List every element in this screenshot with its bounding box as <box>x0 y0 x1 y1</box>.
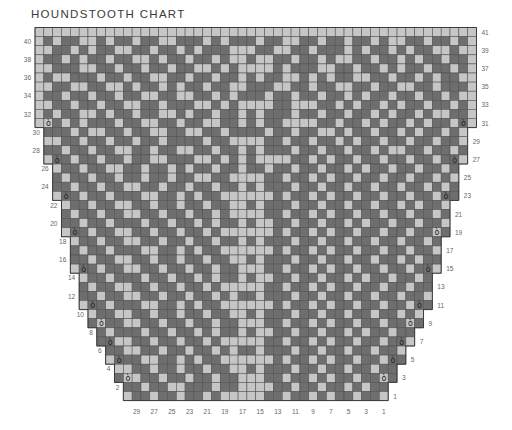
chart-cell <box>397 146 406 155</box>
chart-cell <box>450 28 459 37</box>
increase-marker-right: ò <box>443 191 448 201</box>
column-label: 29 <box>133 408 141 415</box>
chart-cell <box>106 355 115 364</box>
chart-cell <box>326 173 335 182</box>
chart-cell <box>238 173 247 182</box>
chart-cell <box>247 137 256 146</box>
chart-cell <box>185 155 194 164</box>
chart-cell <box>362 119 371 128</box>
chart-cell <box>388 200 397 209</box>
chart-cell <box>344 382 353 391</box>
chart-cell <box>468 91 477 100</box>
chart-cell <box>212 73 221 82</box>
chart-cell <box>291 337 300 346</box>
chart-cell <box>256 291 265 300</box>
chart-cell <box>326 273 335 282</box>
chart-cell <box>141 382 150 391</box>
chart-cell <box>291 155 300 164</box>
chart-cell <box>273 164 282 173</box>
chart-cell <box>318 264 327 273</box>
chart-cell <box>300 91 309 100</box>
chart-cell <box>114 64 123 73</box>
chart-cell <box>326 228 335 237</box>
chart-cell <box>150 155 159 164</box>
chart-cell <box>150 273 159 282</box>
chart-cell <box>265 173 274 182</box>
chart-cell <box>167 200 176 209</box>
chart-cell <box>238 37 247 46</box>
chart-cell <box>371 173 380 182</box>
chart-cell <box>229 337 238 346</box>
chart-cell <box>123 346 132 355</box>
chart-cell <box>318 273 327 282</box>
chart-cell <box>203 328 212 337</box>
row-label-right: 9 <box>429 320 433 327</box>
chart-cell <box>132 164 141 173</box>
chart-cell <box>194 191 203 200</box>
chart-cell <box>220 291 229 300</box>
chart-cell <box>397 355 406 364</box>
chart-cell <box>114 237 123 246</box>
chart-cell <box>212 337 221 346</box>
chart-cell <box>123 392 132 401</box>
chart-cell <box>141 91 150 100</box>
chart-cell <box>353 200 362 209</box>
increase-marker-right: ò <box>435 227 440 237</box>
chart-cell <box>159 355 168 364</box>
row-label-left: 16 <box>59 256 67 263</box>
row-label-left: 24 <box>41 183 49 190</box>
chart-cell <box>362 346 371 355</box>
chart-cell <box>300 291 309 300</box>
chart-cell <box>212 164 221 173</box>
chart-cell <box>185 37 194 46</box>
chart-cell <box>415 137 424 146</box>
chart-cell <box>282 64 291 73</box>
chart-cell <box>282 37 291 46</box>
chart-cell <box>114 173 123 182</box>
chart-cell <box>185 237 194 246</box>
chart-cell <box>53 55 62 64</box>
chart-cell <box>335 355 344 364</box>
chart-cell <box>265 282 274 291</box>
chart-cell <box>247 364 256 373</box>
chart-cell <box>432 55 441 64</box>
chart-cell <box>459 155 468 164</box>
chart-cell <box>79 155 88 164</box>
chart-cell <box>203 200 212 209</box>
chart-cell <box>70 219 79 228</box>
chart-cell <box>459 73 468 82</box>
chart-cell <box>318 392 327 401</box>
chart-cell <box>176 91 185 100</box>
chart-cell <box>273 346 282 355</box>
chart-cell <box>212 301 221 310</box>
chart-cell <box>318 55 327 64</box>
chart-cell <box>318 228 327 237</box>
chart-cell <box>106 37 115 46</box>
chart-cell <box>176 392 185 401</box>
chart-cell <box>432 119 441 128</box>
chart-cell <box>379 328 388 337</box>
chart-cell <box>141 301 150 310</box>
row-label-right: 17 <box>446 247 454 254</box>
chart-cell <box>132 328 141 337</box>
chart-cell <box>300 37 309 46</box>
chart-cell <box>415 264 424 273</box>
chart-cell <box>318 137 327 146</box>
chart-cell <box>194 155 203 164</box>
chart-cell <box>406 200 415 209</box>
chart-cell <box>238 255 247 264</box>
chart-cell <box>167 373 176 382</box>
chart-cell <box>247 373 256 382</box>
chart-cell <box>79 55 88 64</box>
chart-cell <box>159 100 168 109</box>
chart-cell <box>247 37 256 46</box>
chart-cell <box>256 182 265 191</box>
chart-cell <box>176 164 185 173</box>
chart-cell <box>229 273 238 282</box>
chart-cell <box>362 255 371 264</box>
chart-cell <box>203 273 212 282</box>
chart-cell <box>344 109 353 118</box>
chart-cell <box>167 100 176 109</box>
chart-cell <box>353 337 362 346</box>
chart-cell <box>185 310 194 319</box>
